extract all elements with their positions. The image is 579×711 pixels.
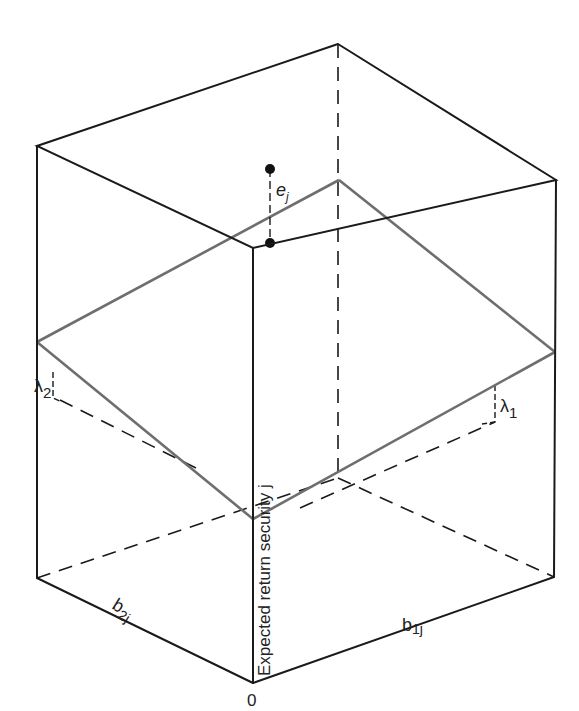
error-term-label: ej [276,180,289,204]
lambda-2-bracket [53,372,62,402]
hidden-box-edges [37,44,554,578]
plane-front-left-edge [37,342,253,519]
visible-box-edges [37,44,556,683]
right-vertical-edge [554,180,556,577]
b2-axis-label: b2j [107,594,137,625]
b1-axis-label: b1j [402,615,423,637]
lambda-1-label: λ1 [500,396,517,421]
plane-projection-right [300,422,495,508]
vertical-axis-label: Expected return security j [255,484,274,676]
top-face [37,44,556,248]
hidden-plane-edges [60,400,495,508]
plane-back-right-edge [339,180,555,352]
back-left-bottom-edge [37,478,338,578]
origin-label: 0 [247,691,256,710]
factor-model-cube-diagram: ej λ2 λ1 Expected return security j 0 b2… [0,0,579,711]
actual-return-dot [265,164,275,174]
expected-return-plane [37,180,555,519]
back-right-bottom-edge [338,478,554,577]
plane-front-right-edge [253,352,555,519]
error-term-segment [265,164,275,248]
left-bottom-edge [37,578,253,683]
plane-back-left-edge [37,180,339,342]
